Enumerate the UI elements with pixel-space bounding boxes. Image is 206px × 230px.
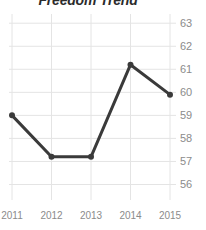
y-axis-tick-label: 63: [180, 17, 204, 29]
y-axis-tick-label: 61: [180, 63, 204, 75]
y-axis-tick-label: 58: [180, 132, 204, 144]
data-point-marker: [9, 112, 15, 118]
data-point-marker: [167, 92, 173, 98]
y-axis-tick-label: 59: [180, 109, 204, 121]
data-point-marker: [128, 62, 134, 68]
y-axis-tick-label: 57: [180, 155, 204, 167]
x-axis-tick-label: 2012: [32, 210, 72, 221]
chart-plot-area: [0, 0, 206, 230]
x-axis-tick-label: 2013: [71, 210, 111, 221]
x-axis-tick-label: 2015: [150, 210, 190, 221]
data-point-marker: [49, 154, 55, 160]
y-axis-tick-label: 60: [180, 86, 204, 98]
y-axis-tick-label: 56: [180, 178, 204, 190]
y-axis-tick-label: 62: [180, 40, 204, 52]
horizontal-gridlines: [9, 23, 176, 184]
x-axis-tick-label: 2014: [111, 210, 151, 221]
x-axis-tick-label: 2011: [0, 210, 32, 221]
chart-container: Freedom Trend 6362616059585756 201120122…: [0, 0, 206, 230]
data-point-marker: [88, 154, 94, 160]
vertical-gridlines: [12, 14, 170, 200]
